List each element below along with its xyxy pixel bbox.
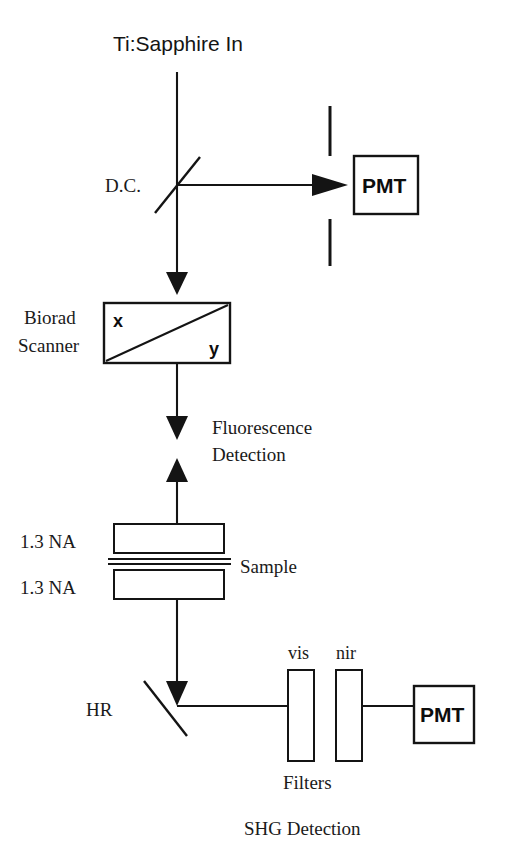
filter-nir-label: nir [336, 643, 356, 663]
fluorescence-label-line2: Detection [212, 444, 286, 465]
pmt-top-label: PMT [362, 174, 407, 197]
diagram-canvas: Ti:Sapphire In D.C. PMT x y Biorad Scann… [0, 0, 508, 863]
pmt-bottom-label: PMT [420, 703, 465, 726]
hr-mirror-label: HR [86, 699, 113, 720]
objective-bottom-box [114, 570, 224, 599]
beam-arrow-into-scanner [166, 272, 188, 295]
filters-group-label: Filters [283, 772, 332, 793]
beam-arrow-into-pmt-top [312, 174, 348, 196]
source-label: Ti:Sapphire In [113, 32, 243, 55]
dichroic-label: D.C. [105, 175, 141, 196]
filter-nir-box [336, 670, 362, 761]
focus-triangle-lower [166, 458, 188, 482]
scanner-label-line2: Scanner [18, 335, 80, 356]
sample-label: Sample [240, 556, 297, 577]
focus-triangle-upper [166, 416, 188, 440]
filter-vis-label: vis [288, 643, 309, 663]
objective-top-box [114, 524, 224, 553]
shg-detection-caption: SHG Detection [244, 818, 361, 839]
objective-top-label: 1.3 NA [20, 531, 76, 552]
optical-setup-diagram: Ti:Sapphire In D.C. PMT x y Biorad Scann… [0, 0, 508, 863]
scanner-y-axis-label: y [209, 339, 219, 359]
filter-vis-box [288, 670, 314, 761]
scanner-x-axis-label: x [113, 311, 123, 331]
fluorescence-label-line1: Fluorescence [212, 417, 312, 438]
objective-bottom-label: 1.3 NA [20, 577, 76, 598]
beam-arrow-into-hr [166, 681, 188, 706]
scanner-label-line1: Biorad [24, 307, 76, 328]
